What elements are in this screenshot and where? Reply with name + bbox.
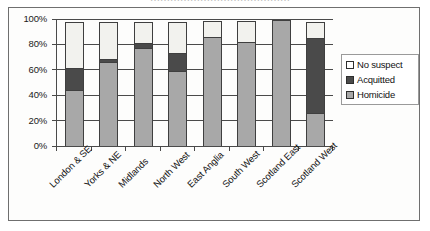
legend: No suspect Acquitted Homicide bbox=[341, 54, 419, 105]
bar[interactable] bbox=[203, 19, 222, 146]
bar[interactable] bbox=[99, 19, 118, 146]
x-axis-label: North West bbox=[151, 149, 192, 190]
bar[interactable] bbox=[168, 19, 187, 146]
bar[interactable] bbox=[134, 19, 153, 146]
x-tick-mark bbox=[125, 147, 126, 151]
y-tick-label: 20% bbox=[29, 115, 47, 126]
bar-segment-nosuspect[interactable] bbox=[168, 22, 187, 54]
legend-label: Acquitted bbox=[357, 74, 395, 85]
figure-frame: 0%20%40%60%80%100% London & SEYorks & NE… bbox=[8, 7, 420, 221]
bar-segment-acquitted[interactable] bbox=[168, 53, 187, 72]
clipped-caption-text: …………………………………… bbox=[150, 0, 290, 3]
bar-segment-homicide[interactable] bbox=[65, 90, 84, 146]
bar-segment-nosuspect[interactable] bbox=[237, 21, 256, 43]
y-tick-label: 40% bbox=[29, 89, 47, 100]
bar-segment-homicide[interactable] bbox=[168, 71, 187, 146]
bar-segment-acquitted[interactable] bbox=[65, 68, 84, 91]
bar-segment-nosuspect[interactable] bbox=[134, 22, 153, 44]
bar-segment-homicide[interactable] bbox=[306, 113, 325, 146]
x-tick-mark bbox=[229, 147, 230, 151]
x-axis-label: East Anglia bbox=[185, 149, 226, 190]
legend-swatch-acquitted-icon bbox=[346, 76, 354, 84]
bar-segment-acquitted[interactable] bbox=[306, 38, 325, 114]
bar-segment-homicide[interactable] bbox=[272, 20, 291, 146]
bar-segment-homicide[interactable] bbox=[134, 48, 153, 146]
bars-container bbox=[57, 19, 332, 146]
legend-label: Homicide bbox=[357, 89, 395, 100]
bar-segment-homicide[interactable] bbox=[203, 37, 222, 146]
legend-item[interactable]: Homicide bbox=[346, 89, 414, 100]
legend-item[interactable]: No suspect bbox=[346, 59, 414, 70]
x-axis-label: Midlands bbox=[116, 156, 150, 190]
y-tick-label: 60% bbox=[29, 64, 47, 75]
bar[interactable] bbox=[237, 19, 256, 146]
legend-swatch-homicide-icon bbox=[346, 91, 354, 99]
legend-label: No suspect bbox=[357, 59, 403, 70]
y-tick-label: 100% bbox=[24, 13, 48, 24]
bar[interactable] bbox=[65, 19, 84, 146]
legend-swatch-no-suspect-icon bbox=[346, 61, 354, 69]
x-tick-mark bbox=[263, 147, 264, 151]
y-tick-label: 0% bbox=[34, 140, 47, 151]
x-tick-mark bbox=[160, 147, 161, 151]
bar[interactable] bbox=[306, 19, 325, 146]
clipped-caption: …………………………………… bbox=[0, 0, 430, 7]
bar[interactable] bbox=[272, 19, 291, 146]
bar-segment-nosuspect[interactable] bbox=[306, 22, 325, 39]
plot-area bbox=[56, 19, 332, 146]
bar-segment-nosuspect[interactable] bbox=[203, 21, 222, 38]
bar-segment-nosuspect[interactable] bbox=[99, 22, 118, 60]
legend-item[interactable]: Acquitted bbox=[346, 74, 414, 85]
x-tick-mark bbox=[194, 147, 195, 151]
x-tick-mark bbox=[56, 147, 57, 151]
bar-segment-homicide[interactable] bbox=[237, 42, 256, 146]
y-tick-label: 80% bbox=[29, 38, 47, 49]
bar-segment-homicide[interactable] bbox=[99, 62, 118, 146]
bar-segment-nosuspect[interactable] bbox=[65, 22, 84, 69]
